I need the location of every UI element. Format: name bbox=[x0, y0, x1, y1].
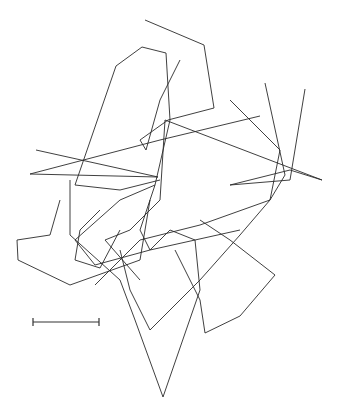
scale-bar bbox=[33, 318, 99, 326]
trace-path bbox=[165, 89, 322, 185]
figure-canvas bbox=[0, 0, 346, 414]
trace-path bbox=[17, 200, 150, 285]
trace-path bbox=[75, 47, 160, 190]
trace-path bbox=[30, 116, 260, 177]
polygon-traces bbox=[17, 20, 322, 397]
trace-path bbox=[175, 220, 275, 333]
trace-path bbox=[140, 20, 214, 150]
trace-path bbox=[75, 185, 240, 265]
trace-path bbox=[70, 180, 200, 397]
trace-plot bbox=[0, 0, 346, 414]
trace-path bbox=[140, 47, 170, 250]
trace-path bbox=[105, 120, 165, 280]
